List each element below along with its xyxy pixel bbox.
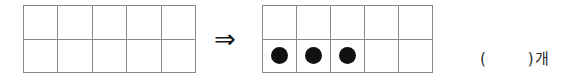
- right-cell-r2c5: [399, 40, 433, 74]
- answer-unit-label: 개: [534, 48, 549, 70]
- counter-dot: [305, 47, 322, 64]
- right-cell-r2c4: [365, 40, 399, 74]
- left-cell-r1c4: [127, 6, 161, 40]
- answer-blank[interactable]: ()개: [480, 48, 549, 70]
- right-cell-r2c1: [263, 40, 297, 74]
- right-cell-r1c5: [399, 6, 433, 40]
- right-cell-r1c3: [331, 6, 365, 40]
- left-cell-r2c1: [24, 40, 58, 74]
- right-cell-r1c2: [297, 6, 331, 40]
- double-arrow-icon: ⇒: [203, 23, 247, 55]
- right-cell-r2c3: [331, 40, 365, 74]
- left-cell-r2c4: [127, 40, 161, 74]
- right-cell-r2c2: [297, 40, 331, 74]
- right-ten-frame: [262, 5, 433, 73]
- left-ten-frame: [23, 5, 196, 73]
- ten-frame-worksheet: ⇒ ()개: [0, 0, 582, 79]
- right-cell-r1c4: [365, 6, 399, 40]
- right-cell-r1c1: [263, 6, 297, 40]
- counter-dot: [339, 47, 356, 64]
- open-paren: (: [480, 48, 486, 70]
- left-cell-r2c2: [58, 40, 92, 74]
- counter-dot: [271, 47, 288, 64]
- left-cell-r1c3: [93, 6, 127, 40]
- left-cell-r1c5: [162, 6, 196, 40]
- left-cell-r2c3: [93, 40, 127, 74]
- left-cell-r1c1: [24, 6, 58, 40]
- left-cell-r1c2: [58, 6, 92, 40]
- left-cell-r2c5: [162, 40, 196, 74]
